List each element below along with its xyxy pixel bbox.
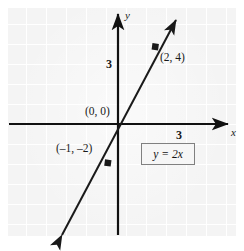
- x-axis-label: x: [231, 127, 236, 138]
- graph-overlay: [0, 0, 244, 251]
- equation-box: y = 2x: [141, 143, 195, 165]
- y-axis-label: y: [125, 10, 130, 21]
- point-marker-2-4: [152, 43, 159, 50]
- graph-figure: y x 3 3 (0, 0) (2, 4) (–1, –2) y = 2x: [0, 0, 244, 251]
- origin-point-label: (0, 0): [85, 106, 110, 118]
- x-axis-tick-label-3: 3: [176, 129, 182, 141]
- equation-text: y = 2x: [153, 148, 182, 160]
- y-axis-tick-label-3: 3: [106, 58, 112, 70]
- point-label-2-4: (2, 4): [160, 52, 185, 64]
- point-marker-neg1-neg2: [104, 159, 111, 166]
- point-label-neg1-neg2: (–1, –2): [56, 143, 92, 155]
